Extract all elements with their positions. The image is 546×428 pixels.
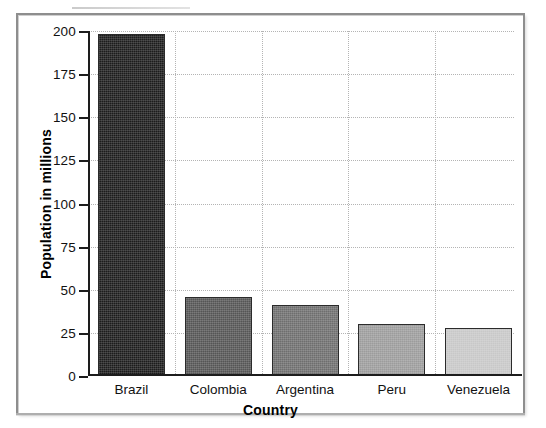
bar-texture (273, 306, 338, 375)
y-tick-mark (79, 376, 88, 378)
y-tick-label: 100 (53, 196, 76, 211)
category-label-peru: Peru (378, 382, 407, 397)
y-tick-label: 125 (53, 153, 76, 168)
gridline-horizontal (88, 31, 514, 32)
bar-venezuela (445, 328, 512, 376)
bar-brazil (98, 34, 165, 376)
gridline-vertical (435, 31, 436, 376)
y-tick-mark (79, 117, 88, 119)
bar-texture (446, 329, 511, 375)
category-label-brazil: Brazil (115, 382, 149, 397)
x-axis-line (88, 374, 522, 376)
bar-argentina (272, 305, 339, 376)
y-axis-title: Population in millions (38, 129, 54, 279)
bar-texture (186, 298, 251, 375)
y-tick-mark (79, 204, 88, 206)
y-tick-label: 200 (53, 24, 76, 39)
bar-texture (99, 35, 164, 375)
y-tick-label: 175 (53, 67, 76, 82)
gridline-vertical (262, 31, 263, 376)
bar-texture (359, 325, 424, 375)
y-tick-mark (79, 333, 88, 335)
y-tick-label: 25 (61, 325, 76, 340)
category-label-venezuela: Venezuela (447, 382, 510, 397)
y-tick-mark (79, 31, 88, 33)
y-tick-label: 50 (61, 282, 76, 297)
y-tick-mark (79, 160, 88, 162)
gridline-vertical (175, 31, 176, 376)
y-tick-mark (79, 290, 88, 292)
scan-artifact (72, 7, 190, 9)
y-tick-label: 0 (68, 369, 76, 384)
y-tick-label: 150 (53, 110, 76, 125)
y-tick-mark (79, 247, 88, 249)
gridline-vertical (348, 31, 349, 376)
plot-area: 0255075100125150175200 BrazilColombiaArg… (88, 31, 522, 376)
y-axis-line (88, 31, 90, 376)
category-label-colombia: Colombia (190, 382, 247, 397)
y-tick-mark (79, 74, 88, 76)
bar-peru (358, 324, 425, 376)
bar-colombia (185, 297, 252, 376)
y-tick-label: 75 (61, 239, 76, 254)
x-axis-title: Country (16, 402, 525, 418)
category-label-argentina: Argentina (276, 382, 334, 397)
bar-chart: Population in millions 02550751001251501… (16, 13, 525, 415)
